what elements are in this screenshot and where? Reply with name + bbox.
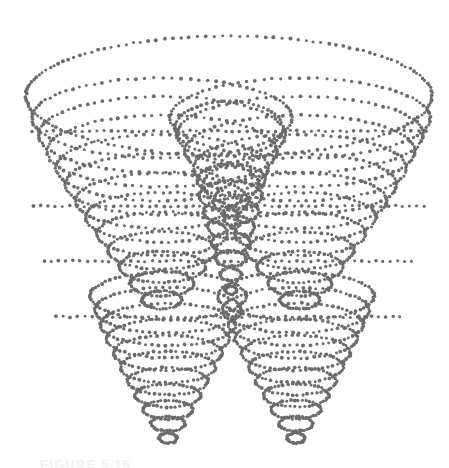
dotted-funnel-figure [0, 0, 449, 468]
figure-caption: FIGURE 5.15 [40, 458, 420, 468]
